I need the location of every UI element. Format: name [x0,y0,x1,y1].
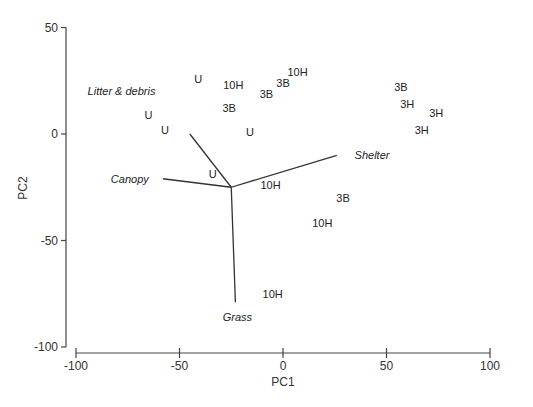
point-label: 10H [287,66,307,78]
y-axis-label: PC2 [16,176,30,200]
y-tick-label: -100 [34,340,58,354]
point-label: 3B [222,102,235,114]
vector-line [163,179,231,188]
x-tick-label: 0 [280,359,287,373]
x-tick-label: 50 [380,359,394,373]
vector-label: Grass [223,311,253,323]
y-tick-label: -50 [41,234,59,248]
point-label: 3H [415,124,429,136]
point-label: 10H [260,179,280,191]
y-tick-label: 0 [51,127,58,141]
vector-line [231,155,337,187]
point-label: 3H [400,98,414,110]
vector-label: Shelter [355,149,391,161]
point-label: 10H [312,217,332,229]
pca-biplot: -100-50050100-100-50050 Litter & debrisC… [0,0,533,407]
point-label: 3B [260,88,273,100]
x-tick-label: -50 [171,359,189,373]
point-label: 10H [223,79,243,91]
point-label: U [144,109,152,121]
axes: -100-50050100-100-50050 [34,21,500,374]
point-label: 3B [336,192,349,204]
point-label: 3B [276,77,289,89]
x-axis-label: PC1 [271,375,295,389]
point-label: U [246,126,254,138]
data-points: UUU10H3BU3B3B10H3B3H3H3HU10H3B10H10H [144,66,443,300]
point-label: U [194,73,202,85]
loading-vectors: Litter & debrisCanopyShelterGrass [88,85,391,323]
x-tick-label: 100 [480,359,500,373]
vector-label: Litter & debris [88,85,156,97]
point-label: 10H [263,288,283,300]
point-label: U [161,124,169,136]
x-tick-label: -100 [64,359,88,373]
point-label: 3H [429,107,443,119]
point-label: U [209,168,217,180]
vector-label: Canopy [111,173,150,185]
vector-line [231,187,235,302]
point-label: 3B [394,81,407,93]
y-tick-label: 50 [45,21,59,35]
